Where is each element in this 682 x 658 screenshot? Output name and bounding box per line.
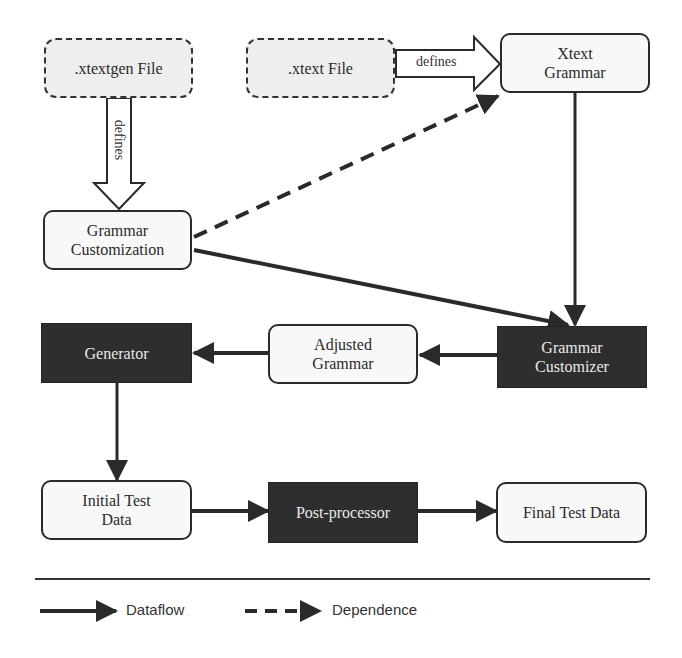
node-label: .xtextgen File [75, 59, 163, 78]
node-label-line1: Grammar [541, 338, 602, 357]
node-final-test-data: Final Test Data [496, 482, 647, 543]
node-grammar-customization: Grammar Customization [43, 210, 192, 270]
node-label: Generator [85, 344, 149, 363]
node-label: .xtext File [288, 59, 353, 78]
dependence-edge [194, 96, 498, 237]
node-xtext-grammar: Xtext Grammar [500, 33, 650, 93]
node-label-line2: Data [101, 510, 131, 529]
node-label-line2: Customizer [535, 357, 609, 376]
node-label-line2: Grammar [544, 63, 605, 82]
node-label-line2: Customization [71, 240, 164, 259]
node-generator: Generator [41, 323, 192, 383]
node-label-line1: Initial Test [82, 491, 150, 510]
legend-dataflow-label: Dataflow [126, 601, 184, 618]
defines-label-horizontal: defines [416, 54, 456, 70]
node-label-line1: Adjusted [314, 335, 372, 354]
node-post-processor: Post-processor [268, 482, 418, 543]
node-label-line1: Xtext [557, 44, 593, 63]
defines-label-vertical: defines [111, 118, 127, 162]
node-grammar-customizer: Grammar Customizer [497, 326, 647, 388]
node-adjusted-grammar: Adjusted Grammar [268, 324, 418, 384]
node-xtextgen-file: .xtextgen File [44, 38, 193, 98]
node-xtext-file: .xtext File [246, 38, 395, 98]
node-label-line1: Grammar [87, 221, 148, 240]
node-label: Post-processor [296, 503, 390, 522]
node-initial-test-data: Initial Test Data [41, 480, 192, 540]
legend-dependence-label: Dependence [332, 601, 417, 618]
node-label: Final Test Data [523, 503, 620, 522]
node-label-line2: Grammar [312, 354, 373, 373]
dataflow-edge [194, 250, 568, 325]
